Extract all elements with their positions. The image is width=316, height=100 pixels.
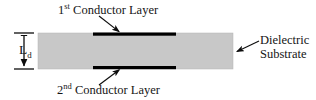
figure-canvas: 1st Conductor Layer 2nd Conductor Layer … [0, 0, 316, 100]
first-conductor-ordinal-suffix: st [64, 1, 70, 11]
second-conductor-layer-strip [93, 66, 176, 69]
dielectric-thickness-label: Ld [19, 42, 32, 57]
second-conductor-layer-label: 2nd Conductor Layer [57, 83, 160, 97]
dielectric-thickness-symbol: L [19, 42, 27, 57]
dielectric-substrate-body [38, 33, 233, 69]
dielectric-substrate-label: Dielectric Substrate [260, 33, 309, 61]
first-conductor-label-text: Conductor Layer [73, 3, 158, 17]
first-conductor-leader-arrow [99, 16, 119, 32]
dielectric-substrate-leader-arrow [237, 41, 259, 51]
dielectric-substrate-label-line1: Dielectric [260, 33, 309, 47]
dielectric-thickness-subscript: d [27, 50, 31, 60]
first-conductor-layer-strip [93, 33, 176, 36]
second-conductor-label-text: Conductor Layer [75, 83, 160, 97]
dielectric-substrate-label-line2: Substrate [260, 47, 309, 61]
first-conductor-layer-label: 1st Conductor Layer [58, 3, 158, 17]
second-conductor-ordinal-suffix: nd [63, 81, 72, 91]
